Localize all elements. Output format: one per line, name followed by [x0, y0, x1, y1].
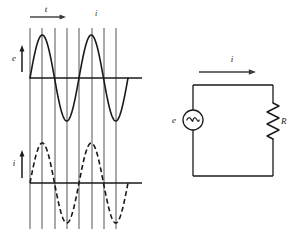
- circuit-panel: i e R: [172, 54, 287, 176]
- time-axis-label: t: [45, 4, 48, 14]
- figure-root: t i e i: [0, 0, 299, 251]
- time-axis-arrow: [30, 15, 66, 20]
- resistor-label: R: [280, 116, 287, 126]
- voltage-waveform-group: e: [12, 35, 142, 121]
- circuit-current-arrow: [199, 69, 256, 75]
- waveform-panel: t i e i: [12, 4, 142, 229]
- voltage-axis-label: e: [12, 53, 16, 63]
- resistor-symbol: [267, 103, 279, 139]
- current-waveform-group: i: [13, 143, 142, 223]
- peak-marker-label: i: [95, 9, 97, 18]
- circuit-loop-wires: [193, 85, 273, 176]
- voltage-y-axis-arrow: [20, 45, 25, 72]
- source-label: e: [172, 115, 176, 125]
- ac-source-symbol: [183, 110, 203, 130]
- vertical-gridlines: [30, 28, 116, 229]
- current-axis-label: i: [13, 158, 16, 168]
- current-y-axis-arrow: [20, 150, 25, 178]
- circuit-current-label: i: [231, 54, 234, 64]
- physics-figure: t i e i: [0, 0, 299, 251]
